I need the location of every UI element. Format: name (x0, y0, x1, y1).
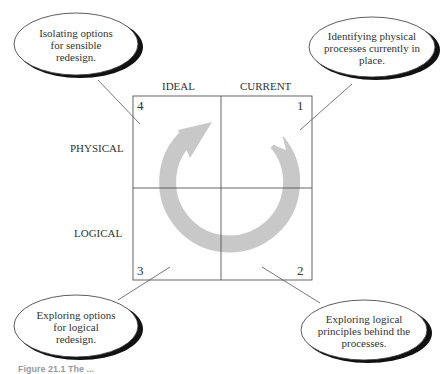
quadrant-number-4: 4 (137, 98, 144, 114)
callout-line: Exploring logical (304, 313, 424, 325)
callout-line: principles behind the (304, 325, 424, 337)
quadrant-number-3: 3 (137, 263, 144, 279)
callout-line: redesign. (16, 51, 136, 63)
cycle-arrow-icon (168, 122, 292, 244)
callout-text-q2: Exploring logical principles behind the … (304, 313, 424, 349)
callout-line: for sensible (16, 39, 136, 51)
quadrant-number-2: 2 (297, 263, 304, 279)
quadrant-grid (133, 96, 312, 280)
figure-caption: Figure 21.1 The ... (18, 364, 94, 374)
callout-line: Isolating options (16, 27, 136, 39)
callout-line: processes. (304, 337, 424, 349)
callout-text-q3: Exploring options for logical redesign. (16, 309, 136, 345)
quadrant-number-1: 1 (297, 98, 304, 114)
callout-line: Identifying physical (312, 30, 432, 42)
column-label-ideal: IDEAL (162, 80, 195, 92)
callout-text-q4: Isolating options for sensible redesign. (16, 27, 136, 63)
leader-line-q1 (300, 84, 352, 130)
leader-line-q3 (118, 267, 170, 300)
callout-line: processes currently in (312, 42, 432, 54)
callout-line: redesign. (16, 333, 136, 345)
callout-line: place. (312, 54, 432, 66)
leader-line-q4 (98, 80, 140, 124)
row-label-physical: PHYSICAL (70, 142, 124, 154)
callout-line: Exploring options (16, 309, 136, 321)
callout-line: for logical (16, 321, 136, 333)
callout-text-q1: Identifying physical processes currently… (312, 30, 432, 66)
row-label-logical: LOGICAL (74, 227, 122, 239)
leader-line-q2 (262, 267, 320, 303)
column-label-current: CURRENT (240, 80, 291, 92)
